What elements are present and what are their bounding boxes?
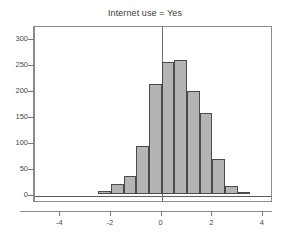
y-axis-labels: 050100150200250300 <box>0 0 28 235</box>
histogram-bar <box>174 60 187 194</box>
y-axis-tick-label: 0 <box>2 191 28 199</box>
y-axis-tick <box>28 117 34 118</box>
histogram-bar <box>111 184 124 194</box>
x-axis-tick-label: 0 <box>151 219 171 227</box>
y-axis-tick <box>28 195 34 196</box>
y-axis-tick-label: 250 <box>2 61 28 69</box>
x-axis-tick <box>110 211 111 216</box>
y-axis-tick <box>28 39 34 40</box>
baseline <box>35 196 271 197</box>
histogram-bar <box>98 191 111 194</box>
histogram-bar <box>212 159 225 194</box>
x-axis-tick-label: -4 <box>49 219 69 227</box>
x-axis-tick-label: -2 <box>100 219 120 227</box>
y-axis-tick <box>28 143 34 144</box>
x-axis-tick <box>59 211 60 216</box>
histogram-bar <box>187 91 200 194</box>
y-axis-tick-label: 100 <box>2 139 28 147</box>
x-axis-tick <box>161 211 162 216</box>
histogram-chart: Internet use = Yes 050100150200250300 -4… <box>0 0 290 235</box>
plot-frame <box>34 26 272 202</box>
histogram-bar <box>136 146 149 194</box>
histogram-bar <box>225 186 238 194</box>
y-axis-tick-label: 50 <box>2 165 28 173</box>
histogram-bar <box>162 62 175 194</box>
chart-title: Internet use = Yes <box>0 8 290 18</box>
x-axis-line <box>20 211 272 212</box>
histogram-bar <box>238 192 251 194</box>
x-axis-tick <box>262 211 263 216</box>
y-axis-tick <box>28 169 34 170</box>
plot-area <box>35 27 271 201</box>
y-axis-tick-label: 150 <box>2 113 28 121</box>
histogram-bar <box>200 113 213 194</box>
y-axis-tick <box>28 65 34 66</box>
x-axis-tick-label: 4 <box>252 219 272 227</box>
x-axis-tick-label: 2 <box>201 219 221 227</box>
x-axis-tick <box>211 211 212 216</box>
histogram-bar <box>149 84 162 194</box>
y-axis-tick <box>28 91 34 92</box>
histogram-bar <box>124 176 137 194</box>
y-axis-tick-label: 200 <box>2 87 28 95</box>
y-axis-tick-label: 300 <box>2 35 28 43</box>
